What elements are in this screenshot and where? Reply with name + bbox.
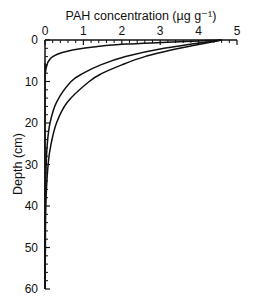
svg-text:10: 10 [25, 75, 39, 89]
curve-profile-1 [45, 40, 222, 289]
svg-text:20: 20 [25, 116, 39, 130]
svg-text:4: 4 [195, 24, 202, 38]
depth-profile-chart: PAH concentration (µg g⁻¹) 012345 010203… [0, 0, 253, 308]
svg-text:60: 60 [25, 282, 39, 296]
curve-profile-2 [45, 40, 222, 289]
svg-text:30: 30 [25, 158, 39, 172]
x-axis-title: PAH concentration (µg g⁻¹) [66, 9, 217, 23]
svg-text:0: 0 [31, 33, 38, 47]
y-axis-title: Depth (cm) [11, 133, 25, 195]
svg-text:3: 3 [157, 24, 164, 38]
svg-text:5: 5 [234, 24, 241, 38]
svg-text:40: 40 [25, 199, 39, 213]
svg-text:50: 50 [25, 241, 39, 255]
svg-text:2: 2 [118, 24, 125, 38]
svg-text:0: 0 [42, 24, 49, 38]
svg-text:1: 1 [80, 24, 87, 38]
profile-curves [45, 40, 222, 289]
curve-profile-3 [45, 40, 222, 289]
